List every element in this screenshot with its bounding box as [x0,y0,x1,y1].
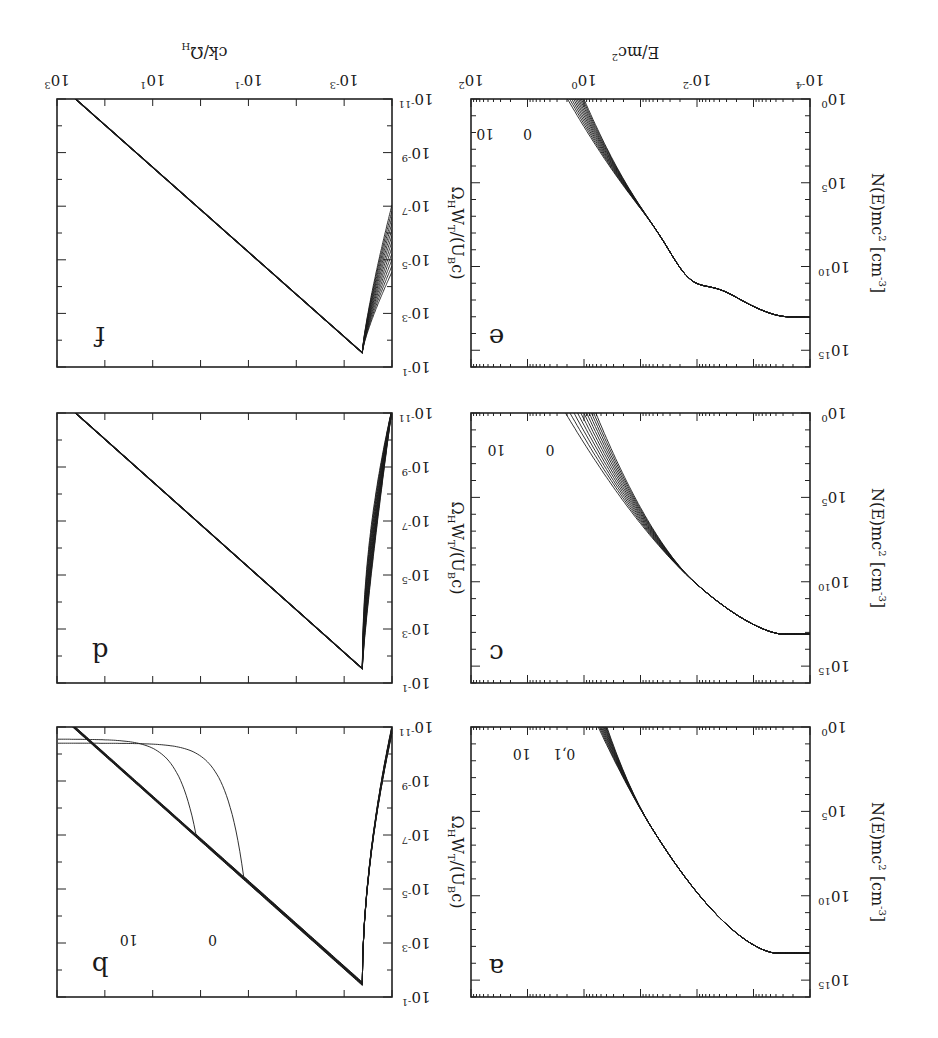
y-tick-label: 1010 [818,258,850,278]
turbulence-curve [58,398,392,669]
turbulence-curve [58,397,392,668]
turbulence-curve [58,398,392,669]
rotated-figure: 10010510101015N(E)mc2 [cm-3]0,110a10-110… [0,0,938,1038]
x-tick-label: 10-3 [330,71,359,91]
y-tick-label: 100 [821,90,846,110]
x-tick-label: 10-4 [796,71,825,91]
spectrum-curve [471,189,810,635]
panel-letter: c [489,639,504,669]
spectrum-curve [471,211,810,634]
y-axis-label: N(E)mc2 [cm-3] [868,802,888,922]
turbulence-curve [58,398,392,669]
y-tick-label: 10-5 [402,880,431,900]
spectrum-curve [471,144,810,953]
spectrum-curve [471,233,810,634]
turbulence-curve [58,84,392,353]
curve-label-last: 10 [476,126,494,142]
curve-label-first: 0 [208,932,217,948]
spectrum-curve [471,173,810,953]
y-axis-label: N(E)mc2 [cm-3] [868,488,888,608]
curve-label-last: 10 [513,746,531,762]
turbulence-curve [58,83,392,352]
x-tick-label: 102 [458,71,483,91]
turbulence-curve [58,714,392,985]
curve-label-last: 10 [120,932,138,948]
spectrum-curve [471,166,810,634]
y-tick-label: 10-9 [402,144,431,164]
turbulence-curve [58,84,392,353]
panel-a: 10010510101015N(E)mc2 [cm-3]0,110a [471,85,888,997]
turbulence-curve [58,713,392,984]
spectrum-curve [471,55,810,634]
y-tick-label: 10-7 [402,512,431,532]
turbulence-curve [58,398,392,669]
curves [58,83,392,353]
spectrum-curve [471,122,810,634]
x-tick-label: 100 [571,71,596,91]
y-axis-label: ΩHWT/(UBc) [446,502,467,595]
panel-d: 10-110-310-510-710-910-11ΩHWT/(UBc)d [57,397,467,694]
x-tick-label: 10-2 [683,71,712,91]
figure-svg: 10010510101015N(E)mc2 [cm-3]0,110a10-110… [0,0,938,1038]
turbulence-curve [58,712,392,983]
spectrum-curve [471,33,810,634]
y-tick-label: 10-11 [398,404,433,424]
turbulence-curve [58,84,392,353]
turbulence-curve [58,713,392,984]
turbulence-curve [58,714,392,985]
y-tick-label: 1015 [818,657,850,677]
panel-letter: f [93,321,105,351]
plot-frame [57,99,392,367]
spectrum-curve [471,144,810,634]
y-tick-label: 10-1 [402,674,431,694]
turbulence-curve [58,84,392,353]
x-tick-label: 10-1 [234,71,263,91]
x-tick-label: 101 [140,71,165,91]
y-tick-label: 10-3 [402,304,431,324]
turbulence-curve [58,83,392,352]
y-tick-label: 10-3 [402,934,431,954]
turbulence-curve [58,398,392,669]
y-tick-label: 10-5 [402,566,431,586]
y-tick-label: 1010 [818,573,850,593]
turbulence-curve [58,733,392,982]
turbulence-curve [58,397,392,668]
x-axis-label: ck/ΩH [181,41,227,62]
y-tick-label: 10-11 [398,90,433,110]
turbulence-curve [58,712,392,983]
turbulence-curve [58,397,392,668]
turbulence-curve [58,398,392,669]
panel-c: 10010510101015N(E)mc2 [cm-3]010c [471,11,888,683]
curve-label-first: 0,1 [553,746,575,762]
y-axis-label: ΩHWT/(UBc) [446,816,467,909]
spectrum-curve [471,351,810,954]
figure-canvas: 10010510101015N(E)mc2 [cm-3]0,110a10-110… [0,0,938,1038]
turbulence-curve [58,397,392,668]
curve-label-first: 0 [523,126,532,142]
turbulence-curve [58,84,392,353]
spectrum-curve [471,203,810,953]
y-tick-label: 100 [821,404,846,424]
y-tick-label: 10-7 [402,197,431,217]
plot-frame [471,413,810,683]
y-tick-label: 10-9 [402,458,431,478]
y-tick-label: 100 [821,718,846,738]
panel-letter: d [92,637,109,667]
x-axis-label: E/mc2 [612,43,660,63]
curves [58,711,392,985]
y-tick-label: 1010 [818,887,850,907]
spectrum-curve [471,292,810,954]
curves [58,397,392,669]
turbulence-curve [58,83,392,352]
y-tick-label: 10-1 [402,358,431,378]
y-tick-label: 10-7 [402,826,431,846]
y-tick-label: 10-11 [398,718,433,738]
y-tick-label: 1015 [818,971,850,991]
y-tick-label: 10-3 [402,620,431,640]
y-tick-label: 105 [821,174,846,194]
turbulence-curve [58,83,392,352]
turbulence-curve [58,397,392,668]
panel-letter: b [92,951,109,981]
y-axis-label: N(E)mc2 [cm-3] [868,173,888,293]
turbulence-curve [58,712,392,983]
